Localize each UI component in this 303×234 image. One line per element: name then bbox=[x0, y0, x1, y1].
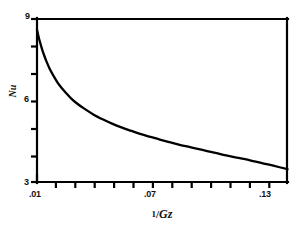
y-tick-label-6: 6 bbox=[24, 95, 29, 104]
x-axis-title: 1/Gz bbox=[36, 208, 288, 220]
y-tick-label-9: 9 bbox=[25, 12, 30, 21]
x-tick-label-0.01: .01 bbox=[29, 190, 41, 199]
y-tick-label-3: 3 bbox=[24, 178, 29, 187]
y-axis-title: Nu bbox=[8, 79, 18, 103]
x-tick-label-0.07: .07 bbox=[144, 190, 156, 199]
x-tick-label-0.13: .13 bbox=[259, 190, 271, 199]
chart-figure: 9 6 3 .01 .07 .13 Nu 1/Gz bbox=[0, 0, 303, 234]
x-axis-title-denominator: Gz bbox=[159, 207, 172, 221]
